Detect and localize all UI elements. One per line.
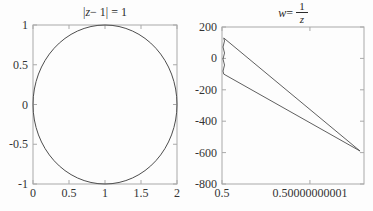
circle-plot-frame bbox=[33, 25, 177, 184]
w-plot-ytick-label: 200 bbox=[199, 20, 217, 34]
circle-plot-ytick-label: 0.5 bbox=[13, 58, 28, 72]
circle-plot: 00.511.5210.50-0.5-1 bbox=[0, 0, 185, 211]
w-plot-ytick-label: -800 bbox=[195, 177, 217, 191]
circle-plot-ytick-label: -0.5 bbox=[9, 137, 28, 151]
w-plot-ytick-label: -200 bbox=[195, 83, 217, 97]
circle-plot-xtick-label: 0 bbox=[30, 186, 36, 200]
circle-plot-xtick-label: 1.5 bbox=[134, 186, 149, 200]
w-plot-upper-branch bbox=[224, 38, 360, 151]
w-plot-xtick-label: 0.50000000001 bbox=[272, 186, 347, 200]
circle-plot-unit-circle-centered-at-1 bbox=[33, 25, 177, 184]
w-plot-lower-branch bbox=[224, 74, 360, 151]
w-plot-ytick-label: -400 bbox=[195, 114, 217, 128]
w-plot-ytick-label: 0 bbox=[211, 51, 217, 65]
figure-canvas: |z − 1| = 1 w = 1z 00.511.5210.50-0.5-1 … bbox=[0, 0, 373, 211]
circle-plot-xtick-label: 1 bbox=[102, 186, 108, 200]
w-plot-noise-squiggle bbox=[223, 38, 225, 74]
w-plot-ytick-label: -600 bbox=[195, 146, 217, 160]
circle-plot-ytick-label: 1 bbox=[22, 18, 28, 32]
circle-plot-xtick-label: 0.5 bbox=[62, 186, 77, 200]
circle-plot-ytick-label: -1 bbox=[18, 177, 28, 191]
w-plot: 0.50.500000000012000-200-400-600-800 bbox=[185, 0, 373, 211]
circle-plot-xtick-label: 2 bbox=[174, 186, 180, 200]
circle-plot-ytick-label: 0 bbox=[22, 98, 28, 112]
w-plot-frame bbox=[222, 27, 364, 184]
